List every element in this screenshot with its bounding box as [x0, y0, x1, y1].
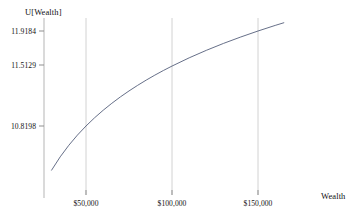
x-tick-label-100000: $100,000 — [140, 199, 204, 208]
x-tick-label-50000: $50,000 — [56, 199, 116, 208]
y-axis — [39, 18, 44, 198]
y-axis-title: U[Wealth] — [25, 7, 62, 17]
horizontal-gridlines — [44, 31, 318, 126]
y-tick-label-11.5129: 11.5129 — [0, 61, 36, 70]
vertical-gridlines — [86, 18, 258, 195]
x-axis — [40, 190, 318, 195]
figure-container: U[Wealth] Wealth 11.9184 11.5129 10.8198… — [0, 0, 353, 223]
x-axis-title: Wealth — [321, 191, 345, 201]
x-tick-label-150000: $150,000 — [226, 199, 290, 208]
y-tick-label-10.8198: 10.8198 — [0, 122, 36, 131]
chart-plot-area — [0, 0, 353, 223]
y-tick-label-11.9184: 11.9184 — [0, 27, 36, 36]
